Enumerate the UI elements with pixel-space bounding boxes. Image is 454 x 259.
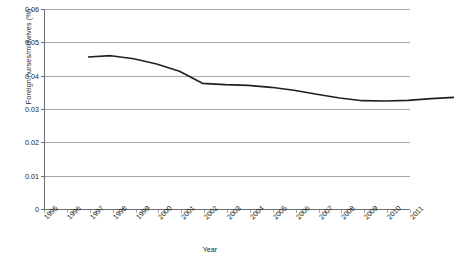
y-tick-mark — [41, 109, 44, 110]
y-axis-line — [44, 9, 45, 210]
y-tick-label: 0.04 — [0, 71, 39, 80]
x-axis-title: Year — [0, 245, 420, 254]
series-line — [88, 18, 454, 219]
y-tick-mark — [41, 142, 44, 143]
y-tick-label: 0.06 — [0, 5, 39, 14]
y-tick-label: 0 — [0, 205, 39, 214]
gridline — [44, 9, 410, 10]
y-tick-mark — [41, 9, 44, 10]
y-tick-label: 0.02 — [0, 138, 39, 147]
y-axis-title: Foreign nurses/midwives (%) — [24, 0, 33, 137]
y-tick-label: 0.03 — [0, 105, 39, 114]
y-tick-mark — [41, 76, 44, 77]
y-tick-mark — [41, 176, 44, 177]
y-tick-label: 0.05 — [0, 38, 39, 47]
plot-area — [44, 9, 410, 209]
y-tick-label: 0.01 — [0, 171, 39, 180]
y-tick-mark — [41, 42, 44, 43]
